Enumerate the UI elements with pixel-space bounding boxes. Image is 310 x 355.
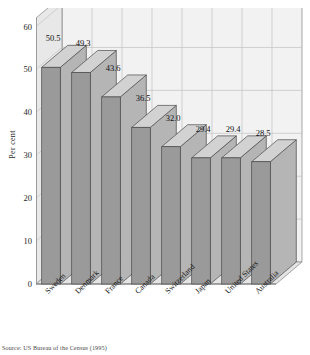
source-note: Source: US Bureau of the Census (1995) xyxy=(2,344,107,351)
bar-value-label: 36.5 xyxy=(136,94,151,103)
y-tick-label: 30 xyxy=(14,151,32,160)
bar-value-label: 50.5 xyxy=(46,34,61,43)
bar-chart: Per cent 0102030405060 50.549.343.636.53… xyxy=(0,0,310,355)
y-tick-label: 10 xyxy=(14,237,32,246)
plot-area: 50.549.343.636.532.029.429.428.5SwedenDe… xyxy=(36,8,304,302)
bar-value-label: 32.0 xyxy=(166,114,181,123)
y-axis-tick-labels: 0102030405060 xyxy=(12,0,32,355)
y-tick-label: 20 xyxy=(14,194,32,203)
bar-australia xyxy=(252,140,297,284)
y-tick-label: 0 xyxy=(14,280,32,289)
plot-svg xyxy=(36,8,304,302)
bar-value-label: 43.6 xyxy=(106,64,121,73)
bar-value-label: 49.3 xyxy=(76,39,91,48)
bar-value-label: 29.4 xyxy=(196,125,211,134)
bar-value-label: 28.5 xyxy=(256,129,271,138)
y-tick-label: 40 xyxy=(14,108,32,117)
bar-value-label: 29.4 xyxy=(226,125,241,134)
y-tick-label: 50 xyxy=(14,65,32,74)
y-tick-label: 60 xyxy=(14,23,32,32)
